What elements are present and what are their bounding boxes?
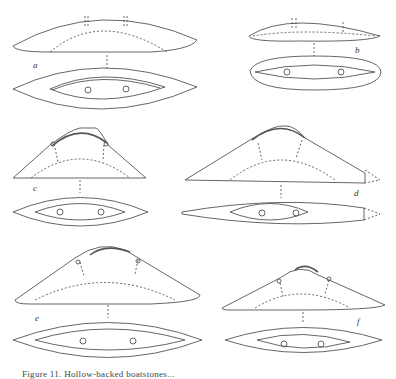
panel-label-c: c [33,183,37,193]
panel-label-b: b [355,45,360,55]
panel-d-side [185,126,380,183]
panel-b-bottom [250,56,381,90]
panel-e-bottom [13,323,202,358]
panel-label-f: f [357,316,360,326]
panel-b-side [249,18,380,41]
panel-f-bottom [225,328,382,353]
panel-a-bottom [13,68,197,109]
panel-label-e: e [35,313,39,323]
panel-label-d: d [354,188,359,198]
panel-c-bottom [13,198,148,227]
figure-caption: Figure 11. Hollow-backed boatstones... [22,369,175,379]
panel-a-side [13,16,197,52]
panel-c-side [13,128,146,178]
panel-label-a: a [33,60,38,70]
panel-d-bottom [182,202,380,223]
panel-f-side [222,266,385,310]
panel-e-side [15,246,200,304]
